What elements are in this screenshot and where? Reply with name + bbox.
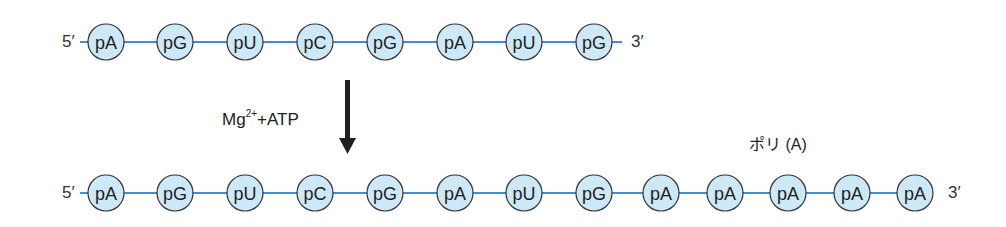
nucleotide-pu: pU — [227, 24, 263, 60]
nucleotide-pa: pA — [88, 24, 124, 60]
nucleotide-pa: pA — [707, 175, 743, 211]
svg-text:pA: pA — [714, 184, 736, 204]
svg-text:pA: pA — [904, 184, 926, 204]
top-three-prime-label: 3′ — [631, 32, 644, 52]
svg-text:pG: pG — [373, 184, 397, 204]
reagent-label: Mg2++ATP — [222, 108, 299, 130]
svg-text:pG: pG — [582, 184, 606, 204]
nucleotide-pg: pG — [157, 24, 193, 60]
svg-text:pU: pU — [512, 184, 535, 204]
nucleotide-pu: pU — [227, 175, 263, 211]
svg-text:pA: pA — [650, 184, 672, 204]
svg-text:pU: pU — [512, 33, 535, 53]
reaction-arrow-icon — [339, 80, 356, 154]
top-five-prime-label: 5′ — [62, 32, 75, 52]
top-strand: pApGpUpCpGpApUpG — [80, 24, 622, 60]
nucleotide-pa: pA — [834, 175, 870, 211]
polyadenylation-diagram: pApGpUpCpGpApUpG pApGpUpCpGpApUpGpApApAp… — [0, 0, 1006, 227]
svg-text:pA: pA — [444, 33, 466, 53]
nucleotide-pu: pU — [506, 175, 542, 211]
svg-text:pA: pA — [777, 184, 799, 204]
nucleotide-pc: pC — [297, 24, 333, 60]
svg-text:pG: pG — [373, 33, 397, 53]
svg-text:pU: pU — [233, 184, 256, 204]
svg-text:pG: pG — [582, 33, 606, 53]
svg-text:pA: pA — [95, 33, 117, 53]
svg-text:pG: pG — [163, 33, 187, 53]
reagent-rest: +ATP — [257, 110, 299, 129]
bottom-five-prime-label: 5′ — [62, 183, 75, 203]
svg-text:pA: pA — [841, 184, 863, 204]
nucleotide-pg: pG — [576, 24, 612, 60]
reagent-main: Mg — [222, 110, 246, 129]
svg-text:pU: pU — [233, 33, 256, 53]
nucleotide-pa: pA — [770, 175, 806, 211]
bottom-strand: pApGpUpCpGpApUpGpApApApApA — [80, 175, 933, 211]
nucleotide-pu: pU — [506, 24, 542, 60]
nucleotide-pc: pC — [297, 175, 333, 211]
nucleotide-pg: pG — [367, 24, 403, 60]
reagent-charge: 2+ — [246, 108, 257, 119]
svg-text:pC: pC — [303, 184, 326, 204]
svg-text:pC: pC — [303, 33, 326, 53]
nucleotide-pa: pA — [643, 175, 679, 211]
svg-text:pA: pA — [95, 184, 117, 204]
bottom-three-prime-label: 3′ — [948, 183, 961, 203]
nucleotide-pg: pG — [367, 175, 403, 211]
nucleotide-pa: pA — [437, 24, 473, 60]
poly-a-label: ポリ (A) — [749, 131, 807, 155]
nucleotide-pa: pA — [88, 175, 124, 211]
nucleotide-pg: pG — [157, 175, 193, 211]
nucleotide-pa: pA — [437, 175, 473, 211]
svg-text:pG: pG — [163, 184, 187, 204]
nucleotide-pa: pA — [897, 175, 933, 211]
nucleotide-pg: pG — [576, 175, 612, 211]
svg-text:pA: pA — [444, 184, 466, 204]
